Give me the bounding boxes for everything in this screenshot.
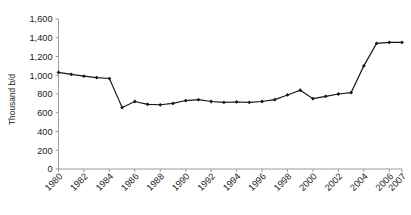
data-point-marker xyxy=(69,72,73,76)
y-axis-ticks: 02004006008001,0001,2001,4001,600 xyxy=(30,14,59,174)
x-tick-label: 1994 xyxy=(221,171,243,193)
data-point-marker xyxy=(95,76,99,80)
data-point-marker xyxy=(247,101,251,105)
data-point-marker xyxy=(184,99,188,103)
y-tick-label: 400 xyxy=(37,127,52,137)
x-tick-label: 1984 xyxy=(94,171,116,193)
data-point-marker xyxy=(400,41,404,45)
x-tick-label: 1998 xyxy=(272,171,294,193)
line-chart-plot: Thousand b/d 02004006008001,0001,2001,40… xyxy=(0,0,411,215)
x-tick-label: 1990 xyxy=(170,171,192,193)
y-tick-label: 1,600 xyxy=(30,14,53,24)
y-tick-label: 1,200 xyxy=(30,52,53,62)
data-point-marker xyxy=(273,98,277,102)
data-point-marker xyxy=(222,101,226,105)
data-point-marker xyxy=(336,92,340,96)
data-point-marker xyxy=(120,106,124,110)
y-tick-label: 200 xyxy=(37,146,52,156)
series-line-path xyxy=(59,42,403,107)
x-tick-label: 1996 xyxy=(246,171,268,193)
data-point-marker xyxy=(107,77,111,81)
y-axis-title: Thousand b/d xyxy=(7,73,17,125)
chart-figure: Thousand b/d 02004006008001,0001,2001,40… xyxy=(0,0,411,215)
x-tick-label: 1988 xyxy=(145,171,167,193)
y-tick-label: 1,000 xyxy=(30,71,53,81)
x-tick-label: 1986 xyxy=(119,171,141,193)
y-tick-label: 1,400 xyxy=(30,33,53,43)
data-point-marker xyxy=(209,100,213,104)
data-point-marker xyxy=(324,94,328,98)
data-point-marker xyxy=(349,91,353,95)
x-tick-label: 2000 xyxy=(297,171,319,193)
y-tick-label: 0 xyxy=(47,164,52,174)
x-tick-label: 1982 xyxy=(68,171,90,193)
data-point-marker xyxy=(133,100,137,104)
x-tick-label: 2004 xyxy=(348,171,370,193)
data-point-marker xyxy=(158,103,162,107)
data-point-marker xyxy=(82,74,86,78)
data-point-marker xyxy=(235,100,239,104)
series-markers xyxy=(57,41,404,110)
data-point-marker xyxy=(197,98,201,102)
x-tick-label: 1992 xyxy=(196,171,218,193)
y-tick-label: 600 xyxy=(37,108,52,118)
x-tick-label: 2002 xyxy=(323,171,345,193)
data-point-marker xyxy=(387,41,391,45)
data-point-marker xyxy=(57,71,61,75)
y-axis-title-text: Thousand b/d xyxy=(7,73,17,125)
y-tick-label: 800 xyxy=(37,89,52,99)
x-tick-label: 1980 xyxy=(43,171,65,193)
data-point-marker xyxy=(146,102,150,106)
data-point-marker xyxy=(171,101,175,105)
data-point-marker xyxy=(286,93,290,97)
x-axis-ticks: 1980198219841986198819901992199419961998… xyxy=(43,169,408,193)
data-point-marker xyxy=(260,100,264,104)
